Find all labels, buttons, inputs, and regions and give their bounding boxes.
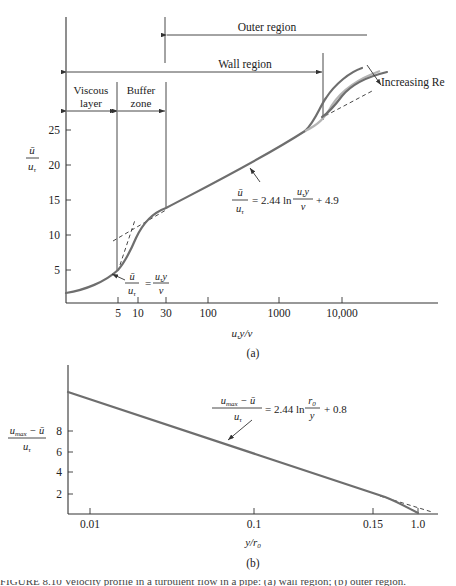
svg-text:ū: ū (237, 187, 242, 198)
y-tick-label: 2 (56, 488, 62, 500)
y-tick-label: 20 (49, 159, 61, 171)
figure-canvas: 25 20 15 10 5 5 10 30 100 1000 10,000 uτ… (0, 0, 456, 586)
x-tick-label: 10,000 (326, 307, 358, 320)
log-law-asymptote (113, 210, 166, 241)
svg-text:umax − ū: umax − ū (221, 395, 256, 408)
defect-law-equation: umax − ū uτ = 2.44 ln r0 y + 0.8 (212, 395, 347, 424)
chart-b-y-ticks: 8 6 4 2 (56, 425, 73, 500)
y-tick-label: 25 (49, 124, 61, 136)
y-tick-label: 15 (49, 194, 61, 206)
svg-text:=: = (145, 277, 151, 289)
y-tick-label: 4 (56, 466, 62, 478)
buffer-label: zone (131, 97, 152, 109)
chart-a-y-ticks: 25 20 15 10 5 (49, 124, 72, 276)
y-tick-label: 6 (56, 446, 62, 458)
profile-tail-low-re (305, 68, 362, 131)
x-tick-label: 1000 (268, 307, 291, 319)
chart-b-y-label: umax − ū uτ (8, 425, 46, 454)
chart-b-x-ticks: 0.01 0.1 0.15 1.0 (80, 508, 426, 530)
svg-text:uτy: uτy (297, 186, 310, 199)
svg-text:uτ: uτ (128, 285, 136, 298)
chart-a: 25 20 15 10 5 5 10 30 100 1000 10,000 uτ… (26, 17, 445, 360)
svg-text:= 2.44 ln: = 2.44 ln (252, 194, 292, 206)
buffer-label: Buffer (127, 84, 156, 96)
svg-text:+ 4.9: + 4.9 (316, 194, 339, 206)
profile-tail-high-re (322, 72, 387, 117)
svg-text:uτ: uτ (234, 411, 242, 424)
svg-text:ν: ν (159, 285, 164, 296)
viscous-label: Viscous (74, 84, 109, 96)
chart-b-panel-label: (b) (246, 557, 260, 570)
x-tick-label: 0.15 (363, 518, 383, 530)
chart-b: 8 6 4 2 0.01 0.1 0.15 1.0 y/r0 (b) umax … (8, 365, 438, 570)
chart-a-x-ticks: 5 10 30 100 1000 10,000 (115, 297, 358, 320)
chart-a-y-label: ū uτ (26, 144, 39, 174)
svg-text:r0: r0 (308, 395, 316, 408)
x-tick-label: 1.0 (411, 518, 426, 530)
svg-text:uτ: uτ (28, 160, 37, 174)
svg-text:ū: ū (29, 144, 35, 156)
svg-text:= 2.44 ln: = 2.44 ln (265, 403, 305, 415)
linear-law-asymptote (120, 220, 135, 265)
outer-region-label: Outer region (238, 21, 297, 34)
x-tick-label: 0.01 (80, 518, 100, 530)
figure-caption-fragment: FIGURE 8.10 Velocity profile in a turbul… (0, 580, 456, 586)
x-tick-label: 5 (115, 307, 121, 319)
svg-text:ν: ν (301, 201, 306, 212)
svg-text:uτ: uτ (236, 203, 244, 216)
log-law-pointer (250, 168, 260, 182)
wall-region-label: Wall region (218, 58, 272, 71)
linear-law-pointer (112, 274, 125, 280)
y-tick-label: 10 (49, 229, 61, 241)
x-tick-label: 100 (199, 307, 217, 319)
increasing-re-label: Increasing Re (381, 76, 445, 89)
viscous-label: layer (80, 97, 102, 109)
x-tick-label: 10 (132, 307, 144, 319)
svg-text:umax − ū: umax − ū (10, 425, 45, 438)
x-tick-label: 0.1 (247, 518, 262, 530)
svg-text:uτ: uτ (23, 441, 31, 454)
y-tick-label: 5 (54, 264, 60, 276)
svg-text:ū: ū (129, 271, 134, 282)
chart-a-x-label: uτy/ν (232, 327, 253, 341)
velocity-profile-curve (66, 131, 305, 293)
svg-text:uτy: uτy (155, 271, 168, 284)
y-tick-label: 8 (56, 425, 62, 437)
linear-law-equation: ū uτ = uτy ν (125, 271, 169, 298)
x-tick-label: 30 (160, 307, 172, 319)
outer-region-marker: Outer region (165, 17, 367, 63)
chart-a-panel-label: (a) (247, 347, 260, 360)
log-law-equation: ū uτ = 2.44 ln uτy ν + 4.9 (232, 186, 339, 216)
svg-text:+ 0.8: + 0.8 (324, 403, 347, 415)
velocity-defect-line (68, 392, 418, 513)
chart-b-x-label: y/r0 (244, 536, 261, 550)
svg-text:y: y (309, 410, 315, 421)
